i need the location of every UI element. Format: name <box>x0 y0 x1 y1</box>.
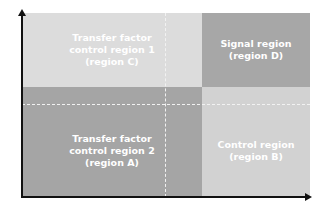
region-c: Transfer factor control region 1 (region… <box>22 13 202 87</box>
region-a-label: Transfer factor control region 2 (region… <box>69 133 155 169</box>
up-arrow-icon <box>18 9 26 16</box>
dashed-vertical-divider <box>165 13 166 197</box>
right-arrow-icon <box>305 193 312 201</box>
region-c-label: Transfer factor control region 1 (region… <box>69 32 155 68</box>
region-d: Signal region (region D) <box>202 13 310 87</box>
region-d-label: Signal region (region D) <box>220 38 291 62</box>
dashed-horizontal-divider <box>22 104 310 105</box>
x-axis <box>21 196 307 198</box>
region-b-label: Control region (region B) <box>217 139 294 163</box>
y-axis <box>21 13 23 198</box>
